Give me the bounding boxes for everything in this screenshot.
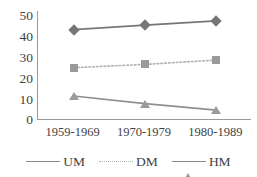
line-chart: 50 40 30 20 10 0 1959-1969 1970-1979 198…: [0, 0, 257, 177]
y-tick-50: 50: [5, 9, 33, 23]
y-tick-10: 10: [5, 93, 33, 107]
triangle-marker-icon: [69, 92, 79, 100]
y-tick-30: 30: [5, 51, 33, 65]
legend-line-dotted: [99, 161, 133, 162]
legend-item-hm[interactable]: HM: [172, 155, 231, 169]
legend-label-dm: DM: [136, 155, 158, 169]
triangle-marker-icon: [140, 100, 150, 108]
x-tick-1980-1989: 1980-1989: [180, 124, 251, 144]
plot-area: [37, 11, 251, 120]
chart-legend: UM DM HM: [0, 150, 257, 174]
triangle-marker-icon: [183, 156, 193, 174]
legend-label-um: UM: [63, 155, 85, 169]
x-tick-1959-1969: 1959-1969: [37, 124, 108, 144]
square-marker-icon: [212, 56, 220, 64]
square-marker-icon: [70, 64, 78, 72]
y-tick-20: 20: [5, 72, 33, 86]
legend-item-um[interactable]: UM: [26, 155, 85, 169]
x-axis-labels: 1959-1969 1970-1979 1980-1989: [37, 124, 251, 144]
triangle-marker-icon: [211, 106, 221, 114]
legend-swatch-dm: [99, 156, 133, 168]
legend-line-solid: [26, 161, 60, 162]
square-marker-icon: [141, 60, 149, 68]
legend-label-hm: HM: [209, 155, 231, 169]
series-layer: [38, 11, 251, 119]
legend-swatch-hm: [172, 156, 206, 168]
x-tick-1970-1979: 1970-1979: [108, 124, 179, 144]
legend-item-dm[interactable]: DM: [99, 155, 158, 169]
y-tick-40: 40: [5, 30, 33, 44]
legend-swatch-um: [26, 156, 60, 168]
y-tick-0: 0: [5, 113, 33, 127]
